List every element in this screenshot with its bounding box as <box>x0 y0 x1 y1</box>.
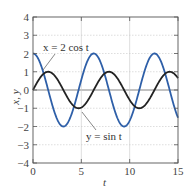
x-tick-label: 15 <box>173 165 185 177</box>
y-tick-label: 1 <box>24 66 30 78</box>
annotation-leader-y <box>82 112 96 130</box>
y-tick-label: 0 <box>24 84 30 96</box>
y-tick-label: 2 <box>24 48 30 60</box>
x-tick-label: 0 <box>30 165 36 177</box>
y-axis-label: x, y <box>9 89 21 105</box>
chart: −4−3−2−101234051015 x = 2 cos t y = sin … <box>0 0 192 193</box>
x-tick-label: 10 <box>124 165 136 177</box>
annotation-x-cos: x = 2 cos t <box>43 41 89 53</box>
annotation-leader-x <box>43 54 55 70</box>
y-tick-label: −4 <box>17 157 29 169</box>
annotation-y-sin: y = sin t <box>86 130 122 142</box>
y-tick-label: 3 <box>24 29 30 41</box>
x-axis-label: t <box>103 176 107 188</box>
y-tick-label: 4 <box>24 11 30 23</box>
y-tick-label: −3 <box>17 139 29 151</box>
tick-labels: −4−3−2−101234051015 <box>17 11 184 177</box>
x-tick-label: 5 <box>79 165 85 177</box>
y-tick-label: −2 <box>17 121 29 133</box>
